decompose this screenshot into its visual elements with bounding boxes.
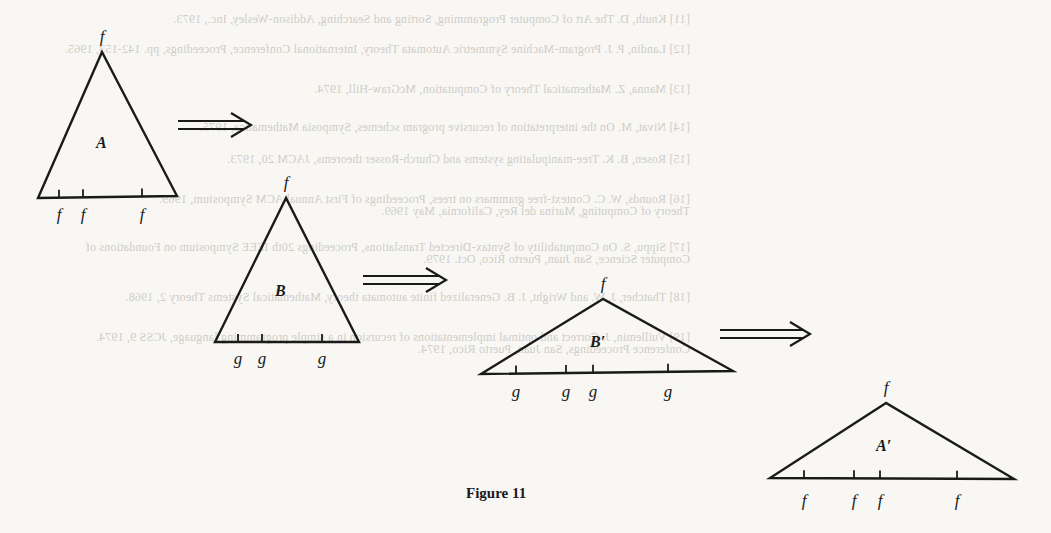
figure-caption: Figure 11 xyxy=(466,485,526,502)
arrow-head xyxy=(426,268,446,292)
triangle-B: fBggg xyxy=(215,173,359,368)
triangle-label: A′ xyxy=(875,437,891,454)
arrow-head xyxy=(790,322,810,346)
triangle-outline xyxy=(38,52,177,198)
apex-label: f xyxy=(601,274,608,293)
tick-label: g xyxy=(664,382,673,401)
tick-label: f xyxy=(81,205,88,224)
tick-label: g xyxy=(318,349,327,368)
triangle-outline xyxy=(770,403,1014,479)
triangle-label: B′ xyxy=(589,333,605,350)
triangle-B-prime: fB′gggg xyxy=(481,274,733,401)
triangle-A: fAfff xyxy=(38,27,177,224)
triangle-outline xyxy=(215,198,359,342)
tick-label: f xyxy=(955,491,962,510)
tick-label: f xyxy=(852,491,859,510)
triangle-A-prime: fA′ffff xyxy=(770,378,1014,510)
triangle-label: B xyxy=(274,282,286,299)
tick-label: g xyxy=(512,382,521,401)
triangle-outline xyxy=(481,299,733,374)
triangle-label: A xyxy=(95,134,107,151)
arrow-head xyxy=(231,113,251,137)
apex-label: f xyxy=(100,27,107,46)
tick-label: g xyxy=(562,382,571,401)
tick-label: f xyxy=(802,491,809,510)
tick-label: f xyxy=(140,205,147,224)
implies-arrow-icon xyxy=(178,113,251,137)
tick-label: g xyxy=(234,349,243,368)
apex-label: f xyxy=(884,378,891,397)
tick-label: f xyxy=(57,205,64,224)
tick-label: g xyxy=(589,382,598,401)
figure-11-diagram: fAffffBgggfB′ggggfA′ffff xyxy=(0,0,1051,533)
scanned-page: [11] Knuth, D. The Art of Computer Progr… xyxy=(0,0,1051,533)
implies-arrow-icon xyxy=(363,268,446,292)
tick-label: f xyxy=(878,491,885,510)
tick-label: g xyxy=(258,349,267,368)
implies-arrow-icon xyxy=(720,322,810,346)
apex-label: f xyxy=(284,173,291,192)
